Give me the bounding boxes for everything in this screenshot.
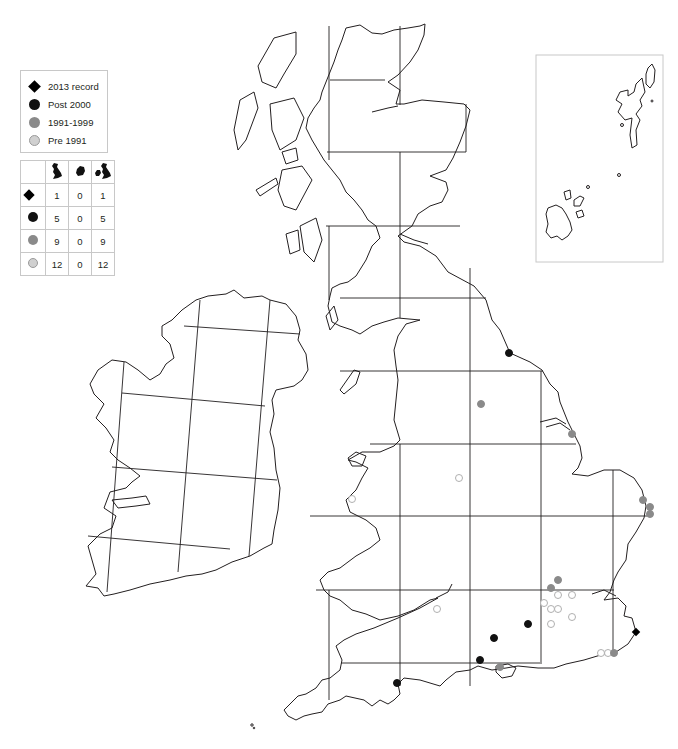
ireland-icon xyxy=(69,161,92,184)
count-total: 5 xyxy=(92,207,115,230)
legend-item-post-2000: Post 2000 xyxy=(29,95,91,113)
record-point xyxy=(548,585,555,592)
legend-item-1991-1999: 1991-1999 xyxy=(29,113,93,131)
record-point xyxy=(548,621,555,628)
legend: 2013 record Post 2000 1991-1999 Pre 1991 xyxy=(20,70,108,153)
diamond-icon xyxy=(28,80,41,93)
record-point xyxy=(506,350,513,357)
count-ireland: 0 xyxy=(69,184,92,207)
count-gb: 9 xyxy=(46,230,69,253)
record-point xyxy=(434,606,441,613)
legend-item-2013-record: 2013 record xyxy=(29,77,99,95)
record-point xyxy=(569,614,576,621)
record-point xyxy=(555,592,562,599)
count-gb: 5 xyxy=(46,207,69,230)
diamond-icon xyxy=(21,184,46,207)
record-point xyxy=(394,680,401,687)
count-gb: 12 xyxy=(46,253,69,276)
record-diamond xyxy=(632,628,640,636)
empty-cell xyxy=(21,161,46,184)
legend-label: Pre 1991 xyxy=(48,135,87,146)
record-count-table: 1 0 1 5 0 5 9 0 9 12 0 12 xyxy=(20,160,115,276)
britain-and-ireland-icon xyxy=(92,161,115,184)
record-point xyxy=(569,431,576,438)
record-point xyxy=(456,475,463,482)
count-ireland: 0 xyxy=(69,230,92,253)
record-point xyxy=(647,511,654,518)
record-point xyxy=(491,635,498,642)
legend-item-pre-1991: Pre 1991 xyxy=(29,131,87,149)
records-post-2000 xyxy=(394,350,532,687)
record-point xyxy=(611,650,618,657)
record-point xyxy=(555,606,562,613)
record-point xyxy=(548,606,555,613)
records-2013 xyxy=(632,628,640,636)
count-ireland: 0 xyxy=(69,253,92,276)
count-total: 12 xyxy=(92,253,115,276)
record-point xyxy=(541,600,548,607)
record-point xyxy=(640,497,647,504)
great-britain-icon xyxy=(46,161,69,184)
count-total: 1 xyxy=(92,184,115,207)
ireland-grid xyxy=(88,300,300,592)
record-point xyxy=(525,621,532,628)
table-row-pre-1991: 12 0 12 xyxy=(21,253,115,276)
count-ireland: 0 xyxy=(69,207,92,230)
black-dot-icon xyxy=(21,207,46,230)
records-1991-1999 xyxy=(478,401,654,671)
record-point xyxy=(477,657,484,664)
table-row-1991-1999: 9 0 9 xyxy=(21,230,115,253)
black-dot-icon xyxy=(29,99,40,110)
legend-label: 1991-1999 xyxy=(48,117,93,128)
table-row-post-2000: 5 0 5 xyxy=(21,207,115,230)
light-dot-icon xyxy=(29,135,40,146)
legend-label: 2013 record xyxy=(48,81,99,92)
record-point xyxy=(497,664,504,671)
record-point xyxy=(647,504,654,511)
grey-dot-icon xyxy=(29,117,40,128)
records-pre-1991 xyxy=(349,475,612,657)
count-gb: 1 xyxy=(46,184,69,207)
table-row-2013: 1 0 1 xyxy=(21,184,115,207)
grey-dot-icon xyxy=(21,230,46,253)
record-point xyxy=(555,577,562,584)
record-point xyxy=(349,496,356,503)
record-point xyxy=(598,650,605,657)
record-point xyxy=(478,401,485,408)
table-header-row xyxy=(21,161,115,184)
count-total: 9 xyxy=(92,230,115,253)
hebrides-islands xyxy=(234,32,338,330)
legend-label: Post 2000 xyxy=(48,99,91,110)
light-dot-icon xyxy=(21,253,46,276)
record-point xyxy=(569,592,576,599)
